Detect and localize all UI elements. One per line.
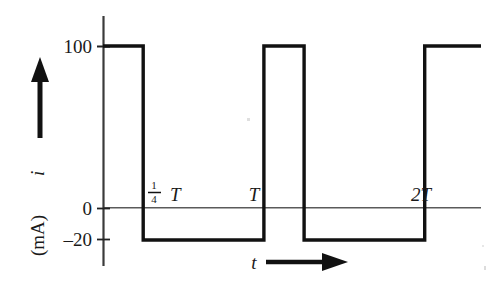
waveform-svg: 100 0 –20 i (mA) 1 4 T T 2T t (0, 0, 496, 289)
fraction-numerator: 1 (151, 179, 157, 191)
y-tick-label-100: 100 (64, 36, 93, 57)
x-axis-variable-label: t (251, 252, 257, 273)
x-axis-arrow-icon (266, 253, 348, 271)
y-axis-arrow-icon (31, 57, 49, 138)
waveform-figure: 100 0 –20 i (mA) 1 4 T T 2T t (0, 0, 496, 289)
scan-speck (484, 266, 486, 270)
y-axis-unit-label: (mA) (27, 215, 49, 256)
scan-speck (482, 245, 484, 247)
fraction-symbol: T (170, 184, 182, 205)
y-tick-label-minus20: –20 (63, 229, 93, 250)
scan-speck (247, 118, 250, 121)
x-tick-label-T: T (249, 184, 261, 205)
y-tick-label-0: 0 (83, 198, 93, 219)
waveform-trace (103, 46, 481, 240)
fraction-denominator: 4 (151, 193, 157, 205)
y-axis-quantity-label: i (27, 171, 48, 176)
x-tick-label-quarter-T: 1 4 T (148, 179, 182, 205)
x-tick-label-2T: 2T (411, 184, 433, 205)
